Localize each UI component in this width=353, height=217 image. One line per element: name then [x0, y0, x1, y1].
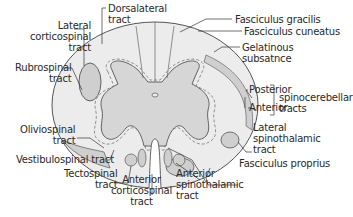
label-lateral-spinothalamic: Lateral spinothalamic tract [253, 122, 321, 155]
label-line: tract [111, 196, 172, 207]
label-oliviospinal: Oliviospinal tract [20, 124, 75, 146]
label-fasciculus-cuneatus: Fasciculus cuneatus [244, 26, 340, 37]
label-anterior-spinothalamic: Anterior spinothalamic tract [176, 168, 244, 201]
lateral-corticospinal-tract [79, 63, 101, 101]
tectospinal-tract [125, 154, 137, 166]
label-line: Anterior [111, 174, 172, 185]
label-line: tracts [279, 103, 353, 114]
label-anterior-corticospinal: Anterior corticospinal tract [111, 174, 172, 207]
label-line: spinothalamic [253, 133, 321, 144]
label-fasciculus-gracilis: Fasciculus gracilis [235, 14, 321, 25]
label-line: Lateral [30, 20, 91, 31]
label-line: corticospinal [111, 185, 172, 196]
label-line: spinocerebellar [279, 92, 353, 103]
label-rubrospinal: Rubrospinal tract [15, 62, 72, 84]
label-gelatinous: Gelatinous subsatnce [242, 42, 294, 64]
label-line: Dorsalateral [108, 3, 167, 14]
label-line: Tectospinal [64, 168, 117, 179]
label-line: Lateral [253, 122, 321, 133]
label-line: tract [108, 14, 167, 25]
label-line: subsatnce [242, 53, 294, 64]
label-lateral-corticospinal: Lateral corticospinal tract [30, 20, 91, 53]
lateral-spinothalamic-tract [221, 132, 239, 148]
label-line: tract [15, 73, 72, 84]
label-line: Rubrospinal [15, 62, 72, 73]
label-line: tract [253, 144, 321, 155]
central-canal [152, 93, 158, 97]
label-line: Anterior [176, 168, 244, 179]
label-line: tract [64, 179, 117, 190]
label-line: tract [30, 42, 91, 53]
anterior-corticospinal-tract-left [138, 149, 146, 167]
label-line: Gelatinous [242, 42, 294, 53]
anterior-corticospinal-tract-right [164, 149, 172, 167]
label-dorsolateral: Dorsalateral tract [108, 3, 167, 25]
label-fasciculus-proprius: Fasciculus proprius [239, 158, 330, 169]
label-line: Oliviospinal [20, 124, 75, 135]
label-spinocerebellar: spinocerebellar tracts [279, 92, 353, 114]
label-tectospinal: Tectospinal tract [64, 168, 117, 190]
label-line: tract [176, 190, 244, 201]
label-line: corticospinal [30, 31, 91, 42]
label-line: tract [20, 135, 75, 146]
label-vestibulospinal: Vestibulospinal tract [16, 154, 114, 165]
label-line: spinothalamic [176, 179, 244, 190]
